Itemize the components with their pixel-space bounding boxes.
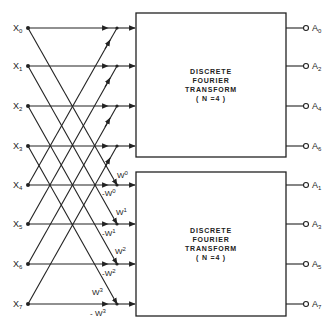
dft-block-top	[136, 13, 286, 157]
horizontal-paths	[28, 28, 135, 304]
svg-text:W1: W1	[116, 207, 128, 217]
svg-text:- W3: - W3	[90, 308, 106, 318]
svg-text:X7: X7	[13, 299, 23, 310]
svg-text:DISCRETE: DISCRETE	[190, 227, 232, 234]
fft-diagram: X0 X1 X2 X3 X4 X5 X6 X7 W0 -W0 W1 -W1 W2…	[0, 0, 334, 324]
svg-text:FOURIER: FOURIER	[192, 236, 229, 243]
input-labels: X0 X1 X2 X3 X4 X5 X6 X7	[13, 23, 23, 310]
svg-text:A0: A0	[312, 23, 322, 34]
svg-text:( N =4 ): ( N =4 )	[196, 95, 226, 103]
svg-text:A2: A2	[312, 61, 322, 72]
svg-text:X5: X5	[13, 219, 23, 230]
svg-text:X1: X1	[13, 61, 23, 72]
output-labels: A0 A2 A4 A6 A1 A3 A5 A7	[312, 23, 322, 310]
svg-text:TRANSFORM: TRANSFORM	[185, 86, 237, 93]
svg-text:A3: A3	[312, 219, 322, 230]
svg-text:TRANSFORM: TRANSFORM	[185, 245, 237, 252]
svg-text:X4: X4	[13, 180, 23, 191]
svg-text:A7: A7	[312, 299, 322, 310]
twiddle-labels: W0 -W0 W1 -W1 W2 -W2 W3 - W3	[90, 170, 129, 318]
svg-text:DISCRETE: DISCRETE	[190, 68, 232, 75]
svg-text:A5: A5	[312, 259, 322, 270]
svg-text:X2: X2	[13, 101, 23, 112]
svg-text:X3: X3	[13, 141, 23, 152]
svg-text:( N =4 ): ( N =4 )	[196, 254, 226, 262]
svg-text:A4: A4	[312, 101, 322, 112]
svg-text:-W1: -W1	[102, 228, 116, 238]
butterfly-diagonals	[28, 28, 117, 304]
svg-text:W3: W3	[92, 287, 104, 297]
svg-text:W0: W0	[117, 170, 129, 180]
svg-text:-W2: -W2	[102, 268, 116, 278]
svg-text:A1: A1	[312, 180, 322, 191]
svg-text:X0: X0	[13, 23, 23, 34]
svg-text:X6: X6	[13, 259, 23, 270]
dft-block-top-text: DISCRETE FOURIER TRANSFORM ( N =4 )	[185, 68, 237, 103]
dft-block-bottom	[136, 172, 286, 316]
svg-text:FOURIER: FOURIER	[192, 77, 229, 84]
dft-block-bottom-text: DISCRETE FOURIER TRANSFORM ( N =4 )	[185, 227, 237, 262]
svg-text:A6: A6	[312, 141, 322, 152]
output-lines	[286, 26, 309, 307]
svg-text:-W0: -W0	[102, 188, 116, 198]
svg-text:W2: W2	[115, 246, 127, 256]
